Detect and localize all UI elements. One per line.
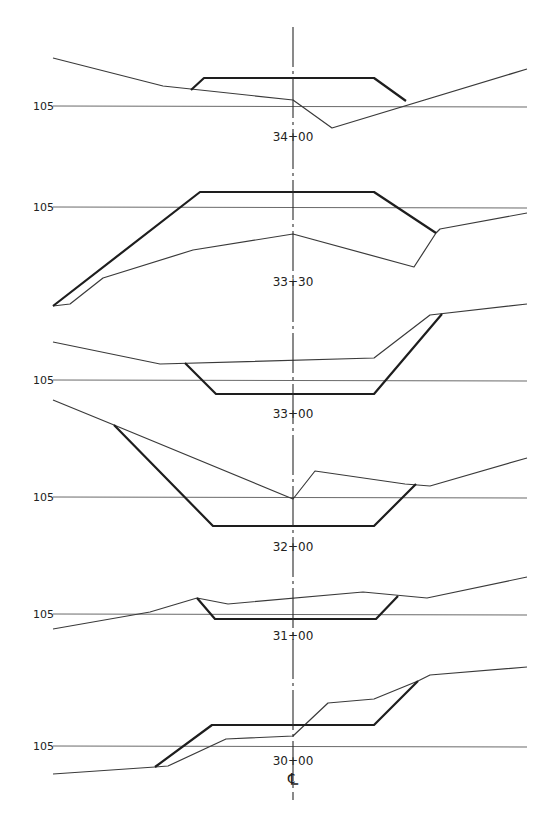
design-template-line (53, 192, 436, 306)
elevation-label: 105 (33, 491, 54, 504)
datum-line-105 (53, 106, 527, 107)
existing-ground-line (53, 213, 527, 306)
elevation-label: 105 (33, 740, 54, 753)
datum-line-105 (53, 207, 527, 208)
sections-layer: 10534+0010533+3010533+0010532+0010531+00… (33, 58, 527, 774)
elevation-label: 105 (33, 608, 54, 621)
datum-line-105 (53, 746, 527, 747)
design-template-line (191, 78, 406, 101)
elevation-label: 105 (33, 201, 54, 214)
datum-line-105 (53, 614, 527, 615)
cross-section-34-00: 10534+00 (33, 58, 527, 144)
design-template-line (185, 314, 442, 394)
elevation-label: 105 (33, 100, 54, 113)
centerline-symbol-icon: ℄ (287, 770, 299, 789)
datum-line-105 (53, 380, 527, 381)
existing-ground-line (53, 577, 527, 629)
cross-section-30-00: 10530+00 (33, 667, 527, 774)
cross-section-33-00: 10533+00 (33, 304, 527, 421)
existing-ground-line (53, 304, 527, 364)
cross-section-33-30: 10533+30 (33, 192, 527, 306)
elevation-label: 105 (33, 374, 54, 387)
cross-section-32-00: 10532+00 (33, 400, 527, 554)
design-template-line (197, 596, 398, 619)
existing-ground-line (53, 58, 527, 128)
cross-section-31-00: 10531+00 (33, 577, 527, 643)
cross-section-drawing: 10534+0010533+3010533+0010532+0010531+00… (0, 0, 553, 824)
design-template-line (114, 425, 416, 526)
